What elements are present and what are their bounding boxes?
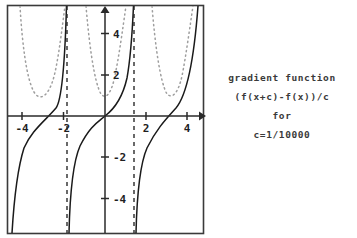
caption-line-for: for [208,106,356,125]
caption-line-title: gradient function [208,68,356,87]
figure-container: -4 -2 2 4 4 2 -2 -4 gradient function (f… [0,0,357,238]
gradient-curve-dotted [20,6,193,97]
caption-line-c-value: c=1/10000 [208,125,356,144]
y-tick-label-0: 4 [113,28,120,41]
y-tick-label-2: -2 [113,151,126,164]
x-tick-label-2: 2 [143,122,150,135]
x-tick-label-1: -2 [57,122,70,135]
y-tick-label-1: 2 [113,69,120,82]
y-axis-arrow [101,6,110,13]
x-tick-label-0: -4 [15,122,29,135]
caption-block: gradient function (f(x+c)-f(x))/c for c=… [208,68,356,144]
y-tick-label-3: -4 [113,193,127,206]
x-axis [8,112,206,121]
caption-line-formula: (f(x+c)-f(x))/c [208,87,356,106]
x-tick-label-3: 4 [184,122,191,135]
x-axis-arrow [199,112,206,121]
